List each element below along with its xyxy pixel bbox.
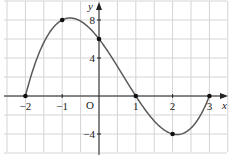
grid-lines: [4, 1, 228, 153]
function-graph: −2−112384−4 x y O: [0, 0, 232, 158]
origin-label: O: [86, 99, 94, 111]
y-axis-label: y: [87, 0, 93, 12]
data-point: [23, 94, 28, 99]
y-tick-label: 8: [90, 14, 96, 26]
y-axis-arrow-icon: [96, 2, 102, 10]
x-tick-label: −1: [56, 100, 68, 112]
x-tick-label: 3: [207, 100, 213, 112]
y-tick-label: −4: [83, 128, 95, 140]
data-point: [97, 37, 102, 42]
axes: [4, 2, 228, 155]
x-tick-label: 2: [170, 100, 176, 112]
data-point: [207, 94, 212, 99]
data-point: [170, 132, 175, 137]
data-point: [134, 94, 139, 99]
data-point: [60, 18, 65, 23]
y-tick-label: 4: [90, 52, 96, 64]
x-tick-label: 1: [133, 100, 139, 112]
x-tick-label: −2: [20, 100, 32, 112]
x-axis-label: x: [221, 99, 227, 111]
